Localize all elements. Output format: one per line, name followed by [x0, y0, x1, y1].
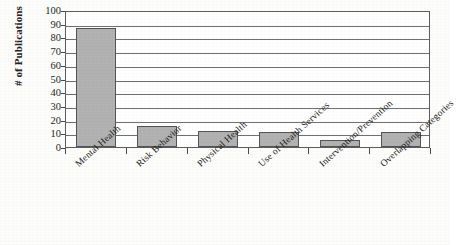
plot-area — [65, 11, 430, 148]
x-axis-tick-mark — [248, 148, 249, 154]
bar — [137, 126, 177, 147]
gridline — [66, 135, 429, 136]
bar — [381, 132, 421, 147]
y-axis-tick-marks — [0, 11, 70, 148]
x-axis-tick-mark — [187, 148, 188, 154]
gridline — [66, 94, 429, 95]
bar — [320, 140, 360, 147]
gridline — [66, 81, 429, 82]
gridline — [66, 122, 429, 123]
x-axis-tick-mark — [308, 148, 309, 154]
gridline — [66, 39, 429, 40]
bar — [259, 132, 299, 147]
x-axis-tick-mark — [126, 148, 127, 154]
x-axis-tick-mark — [65, 148, 66, 154]
gridline — [66, 108, 429, 109]
bar — [198, 131, 238, 147]
x-axis-tick-mark — [430, 148, 431, 154]
gridline — [66, 67, 429, 68]
gridline — [66, 53, 429, 54]
gridline — [66, 26, 429, 27]
bar — [76, 28, 116, 147]
x-axis-tick-mark — [369, 148, 370, 154]
x-axis-category-separators — [65, 148, 431, 154]
